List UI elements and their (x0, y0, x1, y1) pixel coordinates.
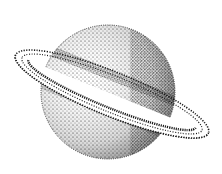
ringed-planet-illustration (0, 0, 222, 174)
planet-body (9, 20, 220, 170)
